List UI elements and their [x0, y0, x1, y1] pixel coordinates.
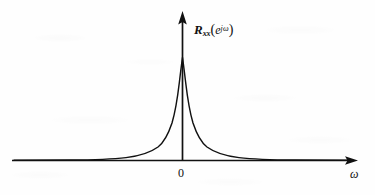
- y-axis-label-close-paren: ): [229, 22, 234, 37]
- origin-tick-label: 0: [178, 167, 184, 179]
- power-spectrum-plot: [0, 0, 375, 195]
- y-axis-label: Rxx(ejω): [194, 23, 233, 38]
- y-axis-label-symbol: R: [194, 22, 203, 37]
- y-axis-label-exponent: jω: [221, 24, 229, 33]
- figure-container: Rxx(ejω) 0 ω: [0, 0, 375, 195]
- x-axis-label: ω: [350, 168, 358, 180]
